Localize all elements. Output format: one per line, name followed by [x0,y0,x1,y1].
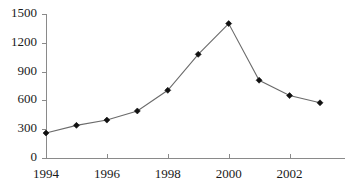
data-markers [43,21,323,136]
line-chart: 150012009006003000 19941996199820002002 [0,0,357,191]
y-tick-label: 0 [31,149,38,164]
data-point-2001 [256,77,262,83]
y-tick-label: 1500 [11,5,37,20]
data-point-1995 [73,122,79,128]
data-point-2003 [317,100,323,106]
data-point-1997 [134,108,140,114]
y-tick-label: 600 [18,91,38,106]
x-tick-label: 1998 [155,166,181,181]
y-tick-labels: 150012009006003000 [11,5,37,164]
x-tick-label: 1994 [33,166,60,181]
x-axis [46,154,345,159]
chart-canvas: 150012009006003000 19941996199820002002 [0,0,357,191]
x-tick-label: 2002 [277,166,303,181]
y-tick-label: 900 [18,63,38,78]
data-point-1996 [104,117,110,123]
y-tick-label: 300 [18,120,38,135]
data-series [46,24,320,133]
y-tick-label: 1200 [11,34,37,49]
data-point-1994 [43,130,49,136]
y-axis [42,14,47,159]
x-tick-label: 1996 [94,166,121,181]
series-line-1 [46,24,320,133]
data-point-2002 [287,93,293,99]
x-tick-labels: 19941996199820002002 [33,166,303,181]
x-tick-label: 2000 [216,166,242,181]
